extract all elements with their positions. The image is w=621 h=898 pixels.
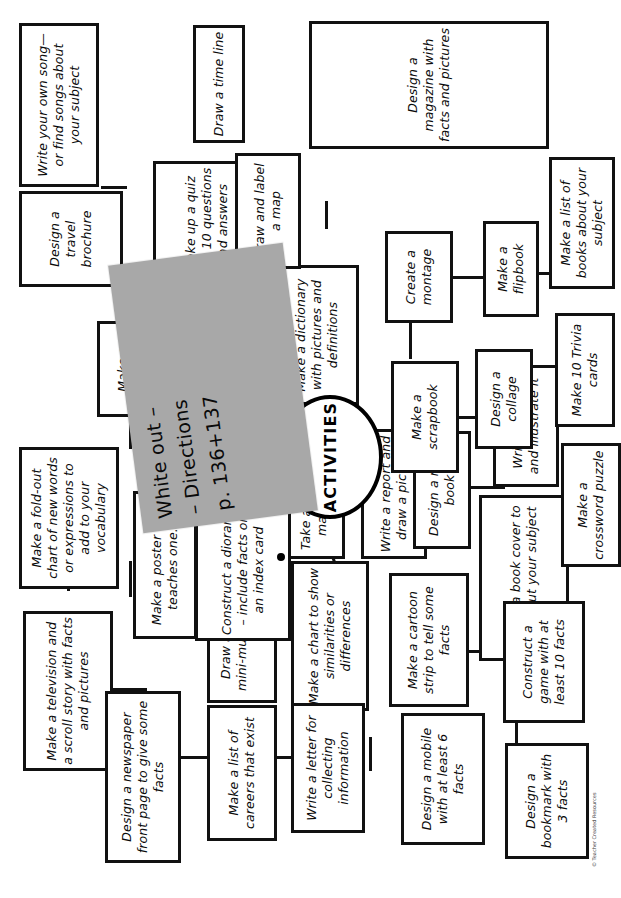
node-newspaper-front[interactable]: Design a newspaper front page to give so… xyxy=(105,691,181,863)
node-travel-brochure[interactable]: Design a travel brochure xyxy=(19,191,123,287)
node-letter-collecting[interactable]: Write a letter for collecting informatio… xyxy=(291,703,365,833)
node-crossword[interactable]: Make a crossword puzzle xyxy=(561,443,621,567)
sticky-note-text: White out – – Directions p. 136+137 xyxy=(119,261,239,520)
connector xyxy=(409,323,412,359)
footnote: © Teacher Created Resources xyxy=(591,793,597,868)
connector xyxy=(177,756,209,759)
hub-label: ACTIVITIES xyxy=(321,402,340,513)
connector xyxy=(101,186,127,189)
node-own-song[interactable]: Write your own song—or find songs about … xyxy=(19,23,99,187)
node-game-10[interactable]: Construct a game with at least 10 facts xyxy=(503,601,585,723)
connector xyxy=(129,561,132,597)
connector xyxy=(453,276,483,279)
hub-activities xyxy=(277,553,285,561)
node-cartoon-strip[interactable]: Make a cartoon strip to tell some facts xyxy=(389,573,469,707)
connector xyxy=(325,201,328,229)
node-flipbook[interactable]: Make a flipbook xyxy=(483,221,539,317)
connector xyxy=(369,737,372,771)
node-chart-similarities[interactable]: Make a chart to show similarities or dif… xyxy=(291,561,369,711)
sticky-note[interactable]: White out – – Directions p. 136+137 xyxy=(108,243,318,534)
node-careers-list[interactable]: Make a list of careers that exist xyxy=(207,705,277,841)
node-scrapbook[interactable]: Make a scrapbook xyxy=(391,361,459,473)
node-montage[interactable]: Create a montage xyxy=(385,231,453,323)
node-time-line[interactable]: Draw a time line xyxy=(193,25,245,143)
node-foldout-chart[interactable]: Make a fold-out chart of new words or ex… xyxy=(19,447,119,589)
node-magazine[interactable]: Design a magazine with facts and picture… xyxy=(309,21,549,149)
node-mobile-6[interactable]: Design a mobile with at least 6 facts xyxy=(401,713,485,845)
node-books-list[interactable]: Make a list of books about your subject xyxy=(549,157,615,289)
node-television-scroll[interactable]: Make a television and a scroll story wit… xyxy=(23,611,113,771)
worksheet-page: Make a television and a scroll story wit… xyxy=(9,9,609,889)
node-bookmark-3[interactable]: Design a bookmark with 3 facts xyxy=(505,743,589,859)
node-trivia-cards[interactable]: Make 10 Trivia cards xyxy=(555,313,615,427)
node-collage[interactable]: Design a collage xyxy=(475,349,533,449)
